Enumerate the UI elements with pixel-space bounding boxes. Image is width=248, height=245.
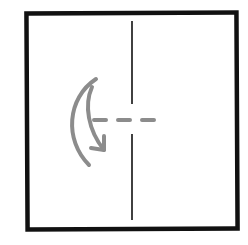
fold-diagram bbox=[0, 0, 248, 245]
